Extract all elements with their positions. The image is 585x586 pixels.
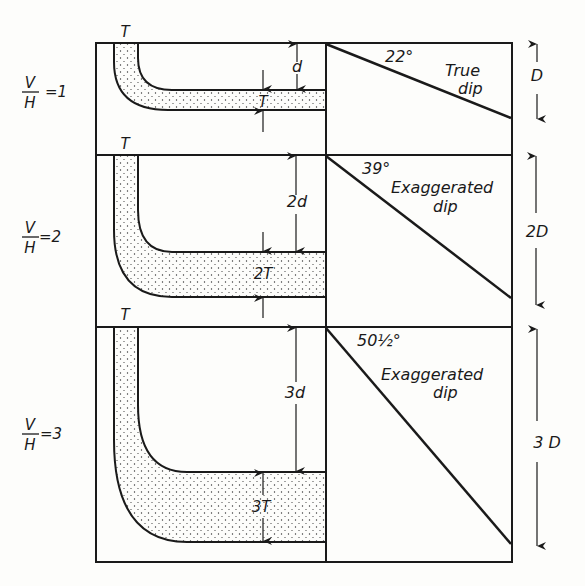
thickness-label-3: 3T <box>252 498 273 516</box>
panel-2: V H =2 T 2d 2T 39° Exaggerated dip 2D <box>22 135 548 318</box>
dip-label-3b: dip <box>433 383 458 402</box>
dip-label-1a: True <box>445 61 480 80</box>
ratio-numerator-3: V <box>25 416 37 434</box>
top-label-2: T <box>120 135 131 153</box>
ratio-value-3: =3 <box>40 425 62 443</box>
dip-line-3 <box>326 328 511 544</box>
height-label-1: D <box>531 66 543 85</box>
ratio-value-1: =1 <box>45 83 67 101</box>
thickness-label-2: 2T <box>254 265 275 283</box>
dip-label-1b: dip <box>458 79 483 98</box>
height-label-3: 3 D <box>533 433 561 452</box>
dip-label-3a: Exaggerated <box>381 365 484 384</box>
panel-1: V H =1 T d T 22° True dip D <box>22 23 543 132</box>
bed-layer-1 <box>114 43 326 110</box>
dip-label-2b: dip <box>433 197 458 216</box>
bed-layer-2 <box>114 155 326 297</box>
angle-label-3: 50½° <box>357 331 401 350</box>
depth-label-2: 2d <box>287 192 308 211</box>
depth-label-3: 3d <box>285 383 306 402</box>
dip-label-2a: Exaggerated <box>391 178 494 197</box>
panel-3: V H =3 T 3d 3T 50½° Exaggerated dip 3 D <box>22 306 561 546</box>
angle-label-1: 22° <box>385 47 413 66</box>
ratio-denominator-2: H <box>24 239 35 257</box>
ratio-numerator-1: V <box>25 74 37 92</box>
ratio-value-2: =2 <box>39 228 61 246</box>
dip-line-1 <box>326 44 511 118</box>
angle-label-2: 39° <box>362 159 390 178</box>
ratio-denominator-3: H <box>24 436 35 454</box>
ratio-denominator-1: H <box>24 94 35 112</box>
top-label-3: T <box>120 306 131 324</box>
ratio-numerator-2: V <box>25 219 37 237</box>
depth-label-1: d <box>292 57 303 76</box>
top-label-1: T <box>120 23 131 41</box>
height-label-2: 2D <box>526 222 549 241</box>
bed-layer-3 <box>114 327 326 542</box>
vertical-exaggeration-diagram: V H =1 T d T 22° True dip D V H =2 T 2d … <box>0 0 585 586</box>
